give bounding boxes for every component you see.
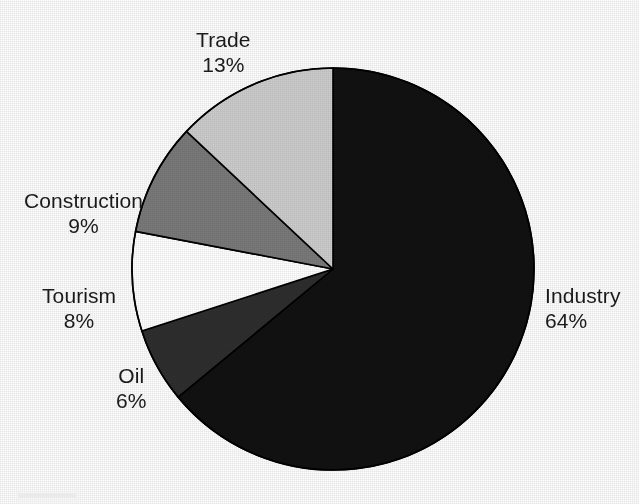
scan-artifact (18, 493, 76, 498)
slice-label-industry-name: Industry (545, 283, 621, 308)
slice-label-tourism-percent: 8% (42, 308, 116, 333)
slice-label-oil-name: Oil (116, 363, 147, 388)
slice-label-construction-percent: 9% (24, 213, 143, 238)
slice-label-trade-name: Trade (196, 27, 251, 52)
slice-label-industry-percent: 64% (545, 308, 621, 333)
slice-label-tourism-name: Tourism (42, 283, 116, 308)
slice-label-trade-percent: 13% (196, 52, 251, 77)
slice-label-oil: Oil 6% (116, 363, 147, 413)
slice-label-oil-percent: 6% (116, 388, 147, 413)
slice-label-trade: Trade 13% (196, 27, 251, 77)
slice-label-industry: Industry 64% (545, 283, 621, 333)
pie-chart: Trade 13% Construction 9% Tourism 8% Oil… (0, 0, 639, 504)
slice-label-construction-name: Construction (24, 188, 143, 213)
slice-label-construction: Construction 9% (24, 188, 143, 238)
pie-slice-group (132, 68, 534, 470)
pie-chart-svg (0, 0, 639, 504)
pie-chart-page: Trade 13% Construction 9% Tourism 8% Oil… (0, 0, 639, 504)
slice-label-tourism: Tourism 8% (42, 283, 116, 333)
